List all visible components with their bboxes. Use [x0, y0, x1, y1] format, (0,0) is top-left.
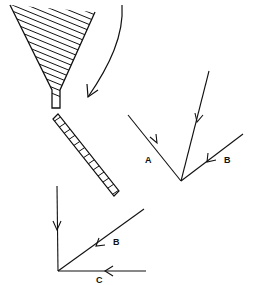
arrowhead-b-lower [96, 238, 105, 246]
label-b-lower: B [113, 237, 120, 247]
label-a: A [145, 155, 152, 165]
ray-b [181, 134, 243, 181]
label-b-upper: B [224, 155, 231, 165]
label-c: C [96, 275, 103, 285]
arrowhead-a [150, 134, 157, 143]
hatched-rod [50, 114, 122, 196]
diagram-canvas: A B B C [0, 0, 253, 285]
arrowhead-vertical [195, 113, 203, 122]
ray-a [128, 115, 181, 181]
ray-vertical [181, 71, 209, 181]
lower-vertex-diagram [53, 186, 146, 276]
hatched-cone [0, 0, 110, 117]
ray-b-lower [58, 209, 144, 271]
